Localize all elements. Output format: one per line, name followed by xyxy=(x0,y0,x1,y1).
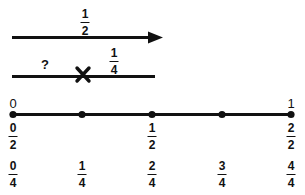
denominator: 2 xyxy=(9,138,18,151)
number-line-end-label: 1 xyxy=(287,97,294,110)
number-line-tick-0 xyxy=(9,111,16,118)
denominator: 4 xyxy=(9,176,18,189)
denominator: 4 xyxy=(78,176,87,189)
denominator: 2 xyxy=(148,138,157,151)
numerator: 1 xyxy=(148,122,157,135)
denominator: 4 xyxy=(148,176,157,189)
number-line-tick-2 xyxy=(148,111,155,118)
half-segment-arrowhead xyxy=(148,32,163,44)
denominator: 4 xyxy=(287,176,296,189)
quarter-segment-label-denominator: 4 xyxy=(110,63,119,76)
number-line-start-label: 0 xyxy=(9,97,16,110)
number-line-tick-1 xyxy=(78,111,85,118)
quarters-label-0: 0 4 xyxy=(9,160,18,189)
halves-label-2: 2 2 xyxy=(287,122,296,151)
half-segment-label-denominator: 2 xyxy=(81,24,90,37)
quarter-segment-label-numerator: 1 xyxy=(110,47,119,60)
denominator: 2 xyxy=(287,138,296,151)
denominator: 4 xyxy=(218,176,227,189)
quarters-label-4: 4 4 xyxy=(287,160,296,189)
half-segment-label-numerator: 1 xyxy=(81,8,90,21)
numerator: 2 xyxy=(148,160,157,173)
x-mark-icon xyxy=(77,68,89,81)
unknown-question-mark: ? xyxy=(41,58,49,71)
quarter-segment-label: 1 4 xyxy=(110,47,119,76)
quarters-label-3: 3 4 xyxy=(218,160,227,189)
quarters-label-1: 1 4 xyxy=(78,160,87,189)
number-line-tick-4 xyxy=(287,111,294,118)
quarters-label-2: 2 4 xyxy=(148,160,157,189)
number-line-tick-3 xyxy=(218,111,225,118)
halves-label-1: 1 2 xyxy=(148,122,157,151)
numerator: 0 xyxy=(9,160,18,173)
numerator: 0 xyxy=(9,122,18,135)
numerator: 4 xyxy=(287,160,296,173)
fraction-number-line-figure: 1 2 ? 1 4 0 1 0 2 1 2 2 2 0 4 1 4 2 xyxy=(0,0,305,195)
half-segment-label: 1 2 xyxy=(81,8,90,37)
numerator: 1 xyxy=(78,160,87,173)
halves-label-0: 0 2 xyxy=(9,122,18,151)
numerator: 3 xyxy=(218,160,227,173)
numerator: 2 xyxy=(287,122,296,135)
